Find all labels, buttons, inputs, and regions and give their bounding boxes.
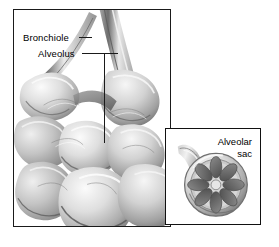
- leader-line-alveolus-horizontal: [82, 53, 118, 54]
- main-illustration-panel: Bronchiole Alveolus: [13, 9, 171, 227]
- leader-line-bronchiole: [79, 37, 92, 38]
- label-bronchiole: Bronchiole: [23, 32, 69, 43]
- label-alveolar-sac-line2: sac: [237, 148, 252, 159]
- inset-illustration-panel: Alveolar sac: [165, 128, 261, 225]
- label-alveolar-sac-line1: Alveolar: [218, 136, 252, 147]
- label-alveolar-sac: Alveolar sac: [218, 136, 252, 159]
- label-alveolus: Alveolus: [38, 48, 75, 59]
- leader-line-alveolus-vertical: [104, 53, 105, 143]
